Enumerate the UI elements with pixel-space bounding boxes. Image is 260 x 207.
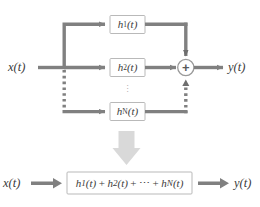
input-label-bottom: x(t) (3, 177, 20, 190)
expr-op-2: + (128, 177, 139, 189)
input-label-top: x(t) (8, 61, 25, 74)
expr-ellipsis: ⋯ (139, 177, 150, 190)
input-arrow-bottom (31, 178, 62, 188)
combined-expression: h1(t)+h2(t)+⋯+hN(t) (67, 172, 192, 194)
block-label-h2: h2(t) (110, 59, 145, 77)
expr-op-3: + (150, 177, 161, 189)
summing-junction-plus-symbol: + (182, 61, 190, 74)
diagram-canvas: x(t) y(t) h1(t) h2(t) hN(t) + . . . x(t)… (0, 0, 260, 207)
branch-riser-down-dotted (63, 70, 106, 112)
output-path-h1 (145, 23, 188, 56)
output-label-bottom: y(t) (234, 177, 251, 190)
vertical-ellipsis: . . . (120, 82, 135, 92)
vertical-ellipsis-dot-3: . (120, 88, 135, 91)
block-label-hN-arg: (t) (128, 106, 138, 117)
expr-term-2-arg: (t) (117, 177, 127, 189)
block-label-hN: hN(t) (110, 103, 145, 121)
output-label-top: y(t) (228, 61, 245, 74)
block-label-h1-arg: (t) (127, 19, 137, 30)
block-label-h1: h1(t) (110, 16, 145, 34)
expr-term-1-arg: (t) (86, 177, 96, 189)
block-label-h2-arg: (t) (127, 62, 137, 73)
expr-op-1: + (96, 177, 107, 189)
branch-riser-up (63, 24, 106, 69)
equivalence-arrow-icon (113, 131, 141, 165)
expr-term-N-arg: (t) (173, 177, 183, 189)
output-arrow-bottom (198, 178, 229, 188)
output-path-hN-dotted (145, 80, 189, 114)
